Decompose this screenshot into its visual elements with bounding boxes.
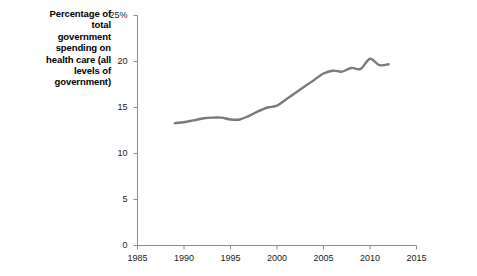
line-chart (0, 0, 477, 276)
x-tick-label: 1985 (118, 253, 158, 263)
chart-ticks (134, 16, 417, 250)
x-tick-label: 2015 (397, 253, 437, 263)
x-tick-label: 2010 (350, 253, 390, 263)
x-tick-label: 2005 (304, 253, 344, 263)
x-tick-label: 2000 (257, 253, 297, 263)
y-tick-label: 0 (98, 240, 128, 250)
data-series (175, 59, 389, 123)
chart-page: Percentage of total government spending … (0, 0, 477, 276)
x-tick-label: 1990 (164, 253, 204, 263)
y-tick-label: 5 (98, 194, 128, 204)
y-tick-label: 20 (98, 56, 128, 66)
series-line (175, 59, 389, 123)
x-tick-label: 1995 (211, 253, 251, 263)
y-tick-label: 15 (98, 102, 128, 112)
chart-axes (138, 16, 417, 246)
y-tick-label: 10 (98, 148, 128, 158)
y-tick-label: 25% (98, 10, 128, 20)
